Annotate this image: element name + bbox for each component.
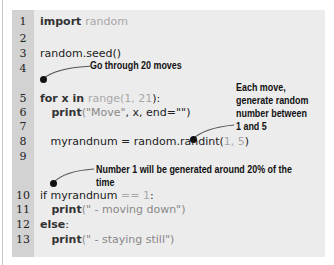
annotation-line: number between (236, 107, 308, 120)
annotation-dot (50, 180, 57, 187)
code-line: print(" - moving down") (40, 203, 185, 216)
line-number: 1 (12, 15, 34, 28)
line-number: 5 (12, 92, 34, 105)
code-token: print (40, 106, 82, 119)
code-token: in (73, 92, 88, 105)
code-token: , x, end="") (126, 106, 191, 119)
code-token: ) (245, 135, 249, 148)
line-number: 3 (12, 47, 34, 60)
line-number: 4 (12, 62, 34, 75)
annotation-leader-line (50, 166, 100, 186)
annotation-dot (40, 76, 47, 83)
annotation-leader-line (40, 62, 100, 82)
code-line: else: (40, 218, 69, 231)
line-number: 7 (12, 120, 34, 133)
line-number: 10 (12, 189, 34, 202)
code-token: == 1 (121, 189, 150, 202)
code-token: (" - staying still") (82, 233, 175, 246)
line-number: 11 (12, 203, 34, 216)
annotation-leader-line (190, 122, 240, 142)
line-number: 8 (12, 135, 34, 148)
code-token: else (40, 218, 65, 231)
code-token: import (40, 15, 85, 28)
line-number: 2 (12, 32, 34, 45)
annotation-dot (190, 136, 197, 143)
code-line: import random (40, 15, 128, 28)
line-number: 6 (12, 106, 34, 119)
code-token: for x (40, 92, 73, 105)
code-token: print (40, 233, 82, 246)
code-token: (" - moving down") (82, 203, 186, 216)
code-token: : (65, 218, 69, 231)
code-line: if myrandnum == 1: (40, 189, 154, 202)
code-line: print(" - staying still") (40, 233, 174, 246)
annotation-line: generate random (236, 94, 308, 107)
annotation-line: Each move, (236, 81, 308, 94)
line-number: 13 (12, 233, 34, 246)
code-token: ("Move" (82, 106, 126, 119)
code-line: print("Move", x, end="") (40, 106, 190, 119)
page-margin-rule (2, 0, 3, 265)
code-token: range( (88, 92, 124, 105)
code-token: 1, 21 (124, 92, 152, 105)
annotation-go-through-moves: Go through 20 moves (90, 59, 182, 72)
annotation-line: 1 and 5 (236, 120, 308, 133)
code-line: for x in range(1, 21): (40, 92, 160, 105)
annotation-each-move: Each move, generate random number betwee… (236, 81, 308, 133)
code-token: ): (152, 92, 160, 105)
line-number: 12 (12, 218, 34, 231)
annotation-number-one: Number 1 will be generated around 20% of… (96, 163, 298, 189)
code-token: random (85, 15, 128, 28)
code-token: print (40, 203, 82, 216)
code-token: if myrandnum (40, 189, 121, 202)
code-token: : (150, 189, 154, 202)
line-number: 9 (12, 150, 34, 163)
